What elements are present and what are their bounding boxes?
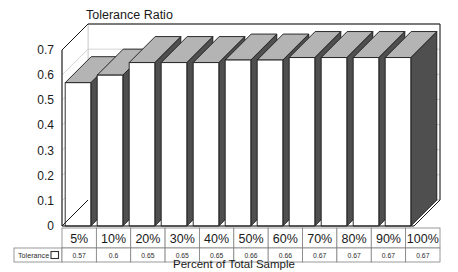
y-axis-tick-label: 0.5: [37, 93, 54, 107]
category-label: 100%: [407, 232, 439, 246]
y-axis-tick-label: 0.4: [37, 118, 54, 132]
value-label: 0.65: [141, 252, 154, 259]
y-axis-tick-label: 0.1: [37, 194, 54, 208]
category-label: 10%: [101, 232, 126, 246]
category-label: 20%: [135, 232, 160, 246]
bar-front-face: [257, 60, 283, 226]
chart-canvas: Tolerance Ratio 0.70.60.50.40.30.20.10 5…: [0, 0, 458, 272]
value-label: 0.67: [416, 252, 429, 259]
bar-side-face: [411, 32, 437, 226]
bar-front-face: [129, 63, 155, 226]
bar-front-face: [289, 58, 315, 226]
category-label: 50%: [238, 232, 263, 246]
bar-front-face: [321, 58, 347, 226]
bar-front-face: [161, 63, 187, 226]
category-label: 40%: [204, 232, 229, 246]
category-label: 5%: [70, 232, 88, 246]
bar-100pct: [385, 32, 437, 226]
y-axis-tick-label: 0: [47, 219, 54, 233]
bar-front-face: [225, 60, 251, 226]
x-axis-label: Percent of Total Sample: [173, 258, 295, 270]
y-axis-tick-label: 0.7: [37, 43, 54, 57]
category-label: 70%: [307, 232, 332, 246]
y-axis-tick-label: 0.2: [37, 169, 54, 183]
category-label: 60%: [273, 232, 298, 246]
chart-title: Tolerance Ratio: [86, 8, 173, 22]
data-table: 5%10%20%30%40%50%60%70%80%90%100%Toleran…: [14, 228, 440, 262]
bar-front-face: [97, 75, 123, 226]
bar-front-face: [193, 63, 219, 226]
value-label: 0.67: [347, 252, 360, 259]
bar-front-face: [385, 58, 411, 226]
bar-front-face: [65, 83, 91, 226]
value-label: 0.67: [313, 252, 326, 259]
bars-layer: [65, 32, 437, 226]
bar-front-face: [353, 58, 379, 226]
tolerance-ratio-chart: Tolerance Ratio 0.70.60.50.40.30.20.10 5…: [0, 0, 458, 272]
value-label: 0.67: [382, 252, 395, 259]
y-axis-tick-label: 0.6: [37, 68, 54, 82]
legend-swatch-icon: [51, 252, 59, 259]
category-label: 30%: [170, 232, 195, 246]
category-label: 90%: [376, 232, 401, 246]
y-axis-tick-label: 0.3: [37, 144, 54, 158]
value-label: 0.6: [109, 252, 119, 259]
legend-label: Tolerance: [18, 251, 49, 260]
value-label: 0.57: [73, 252, 86, 259]
category-label: 80%: [342, 232, 367, 246]
